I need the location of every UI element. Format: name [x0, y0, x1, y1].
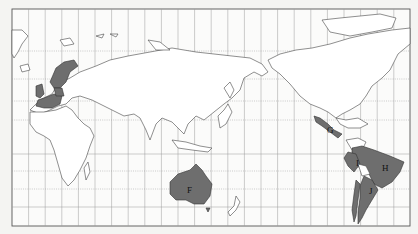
label-g: G — [327, 125, 334, 135]
label-f: F — [187, 185, 192, 195]
label-j: J — [369, 186, 373, 196]
world-map: F G H I J — [0, 0, 418, 234]
label-i: I — [356, 158, 359, 168]
label-h: H — [382, 163, 389, 173]
